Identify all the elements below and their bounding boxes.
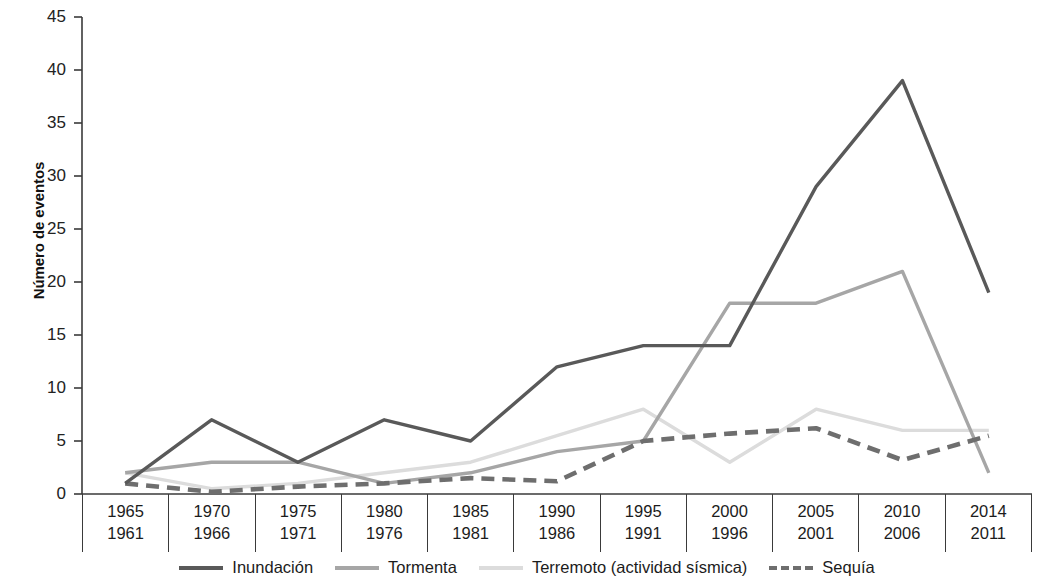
- x-axis-period-cell: 20142011: [946, 494, 1031, 552]
- period-start-year: 2011: [971, 523, 1006, 545]
- period-end-year: 1990: [539, 501, 576, 523]
- x-axis-period-cell: 19951991: [601, 494, 687, 552]
- x-axis-period-cell: 19801976: [342, 494, 428, 552]
- legend-swatch-solid: [335, 566, 379, 570]
- x-axis-period-cell: 20102006: [859, 494, 945, 552]
- legend-label: Inundación: [232, 558, 313, 577]
- period-end-year: 2014: [970, 501, 1007, 523]
- legend-item[interactable]: Inundación: [179, 558, 313, 577]
- x-axis-period-cell: 19851981: [428, 494, 514, 552]
- period-start-year: 1981: [452, 523, 489, 545]
- period-start-year: 1976: [366, 523, 403, 545]
- legend-item[interactable]: Tormenta: [335, 558, 457, 577]
- period-start-year: 1971: [280, 523, 317, 545]
- legend-swatch-solid: [479, 566, 523, 570]
- period-end-year: 1980: [366, 501, 403, 523]
- period-start-year: 1961: [107, 523, 144, 545]
- series-line-tormenta: [125, 271, 989, 483]
- series-line-terremoto-actividad-s-smica: [125, 409, 989, 489]
- series-line-inundaci-n: [125, 81, 989, 484]
- period-end-year: 1975: [280, 501, 317, 523]
- period-start-year: 1996: [711, 523, 748, 545]
- chart-legend: InundaciónTormentaTerremoto (actividad s…: [0, 558, 1054, 577]
- legend-swatch-solid: [179, 566, 223, 570]
- period-start-year: 2001: [797, 523, 834, 545]
- x-axis-period-cell: 19651961: [83, 494, 169, 552]
- period-end-year: 2010: [884, 501, 921, 523]
- x-axis-period-table: 1965196119701966197519711980197619851981…: [82, 494, 1032, 552]
- x-axis-period-cell: 20001996: [687, 494, 773, 552]
- period-start-year: 2006: [884, 523, 921, 545]
- period-start-year: 1991: [625, 523, 662, 545]
- period-end-year: 2005: [797, 501, 834, 523]
- period-end-year: 1970: [194, 501, 231, 523]
- x-axis-period-cell: 19901986: [514, 494, 600, 552]
- legend-item[interactable]: Sequía: [769, 558, 874, 577]
- legend-label: Sequía: [822, 558, 874, 577]
- period-start-year: 1986: [539, 523, 576, 545]
- x-axis-period-cell: 19701966: [169, 494, 255, 552]
- legend-item[interactable]: Terremoto (actividad sísmica): [479, 558, 747, 577]
- period-end-year: 1985: [452, 501, 489, 523]
- period-start-year: 1966: [194, 523, 231, 545]
- x-axis-period-cell: 20052001: [773, 494, 859, 552]
- series-line-sequ-a: [125, 428, 989, 492]
- legend-label: Tormenta: [388, 558, 457, 577]
- period-end-year: 1995: [625, 501, 662, 523]
- x-axis-period-cell: 19751971: [256, 494, 342, 552]
- period-end-year: 2000: [711, 501, 748, 523]
- period-end-year: 1965: [107, 501, 144, 523]
- legend-swatch-dashed: [769, 566, 813, 570]
- legend-label: Terremoto (actividad sísmica): [532, 558, 747, 577]
- events-line-chart: Número de eventos 454035302520151050 196…: [0, 0, 1054, 588]
